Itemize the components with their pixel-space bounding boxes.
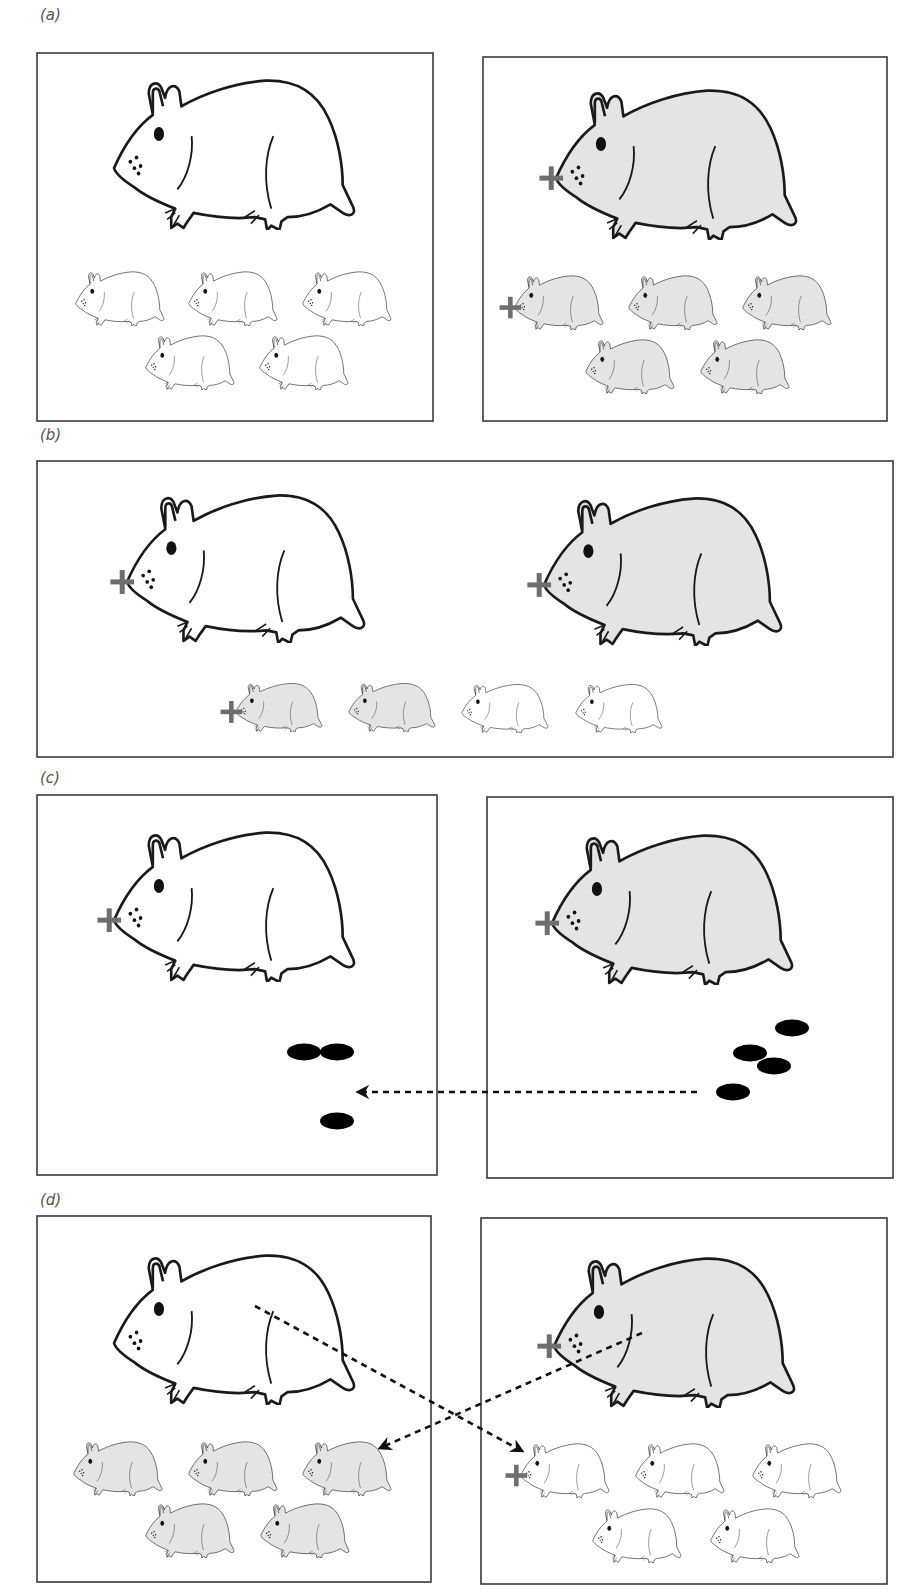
- adult-hamster-grey: [539, 91, 796, 240]
- pup-hamster-grey: [220, 683, 322, 732]
- cross-marker-icon: [499, 297, 521, 319]
- cross-marker-icon: [220, 701, 242, 723]
- food-pellet: [716, 1084, 750, 1101]
- pup-hamster-white: [76, 272, 164, 326]
- food-pellet: [320, 1044, 354, 1061]
- food-pellet: [287, 1044, 321, 1061]
- panel-a: (a): [37, 6, 887, 421]
- adult-hamster-white: [110, 495, 364, 643]
- cage-box: [481, 1218, 887, 1584]
- adult-hamster-white: [114, 1256, 354, 1405]
- food-pellet: [757, 1058, 791, 1075]
- pup-hamster-white: [593, 1509, 681, 1563]
- pup-hamster-white: [711, 1509, 799, 1563]
- cross-marker-icon: [505, 1465, 527, 1487]
- cage-box: [37, 1216, 431, 1582]
- pup-hamster-grey: [701, 340, 789, 394]
- panel-c: (c): [37, 769, 893, 1178]
- adult-hamster-white: [114, 81, 354, 230]
- panel-label: (a): [40, 6, 61, 24]
- pup-hamster-white: [753, 1444, 841, 1498]
- pup-hamster-white: [636, 1444, 724, 1498]
- panel-d: (d): [37, 1191, 887, 1584]
- food-pellet: [320, 1113, 354, 1130]
- pup-hamster-white: [189, 272, 277, 326]
- pup-hamster-white: [260, 336, 348, 390]
- cage-box: [487, 797, 893, 1178]
- pup-hamster-white: [462, 684, 548, 733]
- cage-box: [37, 53, 433, 421]
- pup-hamster-white: [505, 1444, 609, 1498]
- panel-label: (b): [40, 426, 61, 444]
- panel-b: (b): [37, 426, 893, 757]
- pup-hamster-grey: [349, 683, 435, 732]
- pup-hamster-white: [576, 684, 662, 733]
- pup-hamster-grey: [586, 340, 674, 394]
- pup-hamster-white: [303, 272, 391, 326]
- pup-hamster-grey: [74, 1442, 162, 1496]
- adult-hamster-white: [97, 833, 354, 982]
- food-pellet: [733, 1045, 767, 1062]
- pup-hamster-grey: [189, 1442, 277, 1496]
- figure-canvas: (a)(b)(c)(d): [0, 0, 912, 1596]
- pup-hamster-grey: [629, 276, 717, 330]
- adult-hamster-grey: [535, 836, 792, 985]
- pup-hamster-grey: [499, 276, 603, 330]
- cage-box: [37, 461, 893, 757]
- cage-box: [37, 795, 437, 1175]
- adult-hamster-grey: [527, 498, 781, 646]
- food-pellet: [775, 1020, 809, 1037]
- panel-label: (d): [40, 1191, 61, 1209]
- pup-hamster-white: [146, 336, 234, 390]
- adult-hamster-grey: [537, 1259, 794, 1408]
- panels-layer: (a)(b)(c)(d): [37, 6, 893, 1584]
- pup-hamster-grey: [743, 276, 831, 330]
- panel-label: (c): [40, 769, 60, 787]
- pup-hamster-grey: [146, 1504, 234, 1558]
- pup-hamster-grey: [303, 1442, 391, 1496]
- cage-box: [483, 57, 887, 421]
- pup-hamster-grey: [261, 1504, 349, 1558]
